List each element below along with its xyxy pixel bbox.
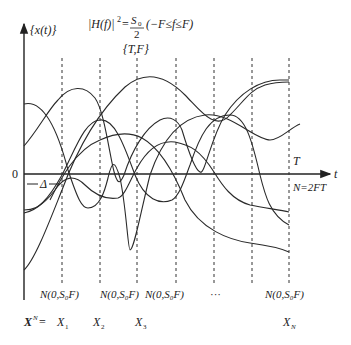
sample-X3-sub: 3 <box>143 323 147 331</box>
param-label: {T,F} <box>123 42 149 56</box>
distribution-ellipsis: ··· <box>210 288 221 300</box>
distribution-labels: N(0,S₀F) N(0,S₀F) N(0,S₀F) ··· N(0,S₀F) <box>39 288 304 301</box>
T-label: T <box>293 154 301 168</box>
sample-XN-sub: N <box>290 323 296 331</box>
distribution-3: N(0,S₀F) <box>144 288 184 301</box>
sample-time-lines <box>62 58 289 283</box>
sample-curve-1 <box>24 104 300 250</box>
N-label: N=2FT <box>292 181 327 193</box>
sample-X2: X <box>92 315 101 329</box>
distribution-N: N(0,S₀F) <box>264 288 304 301</box>
vector-label: X <box>23 315 33 329</box>
random-process-sampling-diagram: {x(t)} |H(f)| 2 = S 0 2 (−F≤f≤F) {T,F} 0… <box>0 0 351 345</box>
formula-range: (−F≤f≤F) <box>146 17 193 31</box>
spectrum-formula: |H(f)| 2 = S 0 2 (−F≤f≤F) <box>88 14 193 40</box>
distribution-2: N(0,S₀F) <box>99 288 139 301</box>
distribution-1: N(0,S₀F) <box>39 288 79 301</box>
formula-numerator: S <box>131 14 137 26</box>
sample-vector: X N = X 1 X 2 X 3 X N <box>23 314 296 331</box>
formula-lhs: |H(f)| <box>88 17 115 31</box>
origin-label: 0 <box>12 167 18 181</box>
sample-X3: X <box>134 315 143 329</box>
vector-equals: = <box>39 315 46 329</box>
sample-X1: X <box>56 315 65 329</box>
sample-XN: X <box>282 315 291 329</box>
sample-curve-5 <box>50 134 289 252</box>
sample-X1-sub: 1 <box>65 323 69 331</box>
delta-label: Δ <box>39 177 47 191</box>
formula-exponent: 2 <box>117 15 121 24</box>
formula-denominator: 2 <box>134 28 140 40</box>
sample-curve-6 <box>24 142 289 212</box>
formula-equals: = <box>122 17 129 31</box>
y-axis-label: {x(t)} <box>30 23 56 37</box>
sample-X2-sub: 2 <box>101 323 105 331</box>
vector-superscript: N <box>32 314 38 322</box>
formula-numerator-sub: 0 <box>138 20 142 28</box>
x-axis-label: t <box>334 167 338 181</box>
